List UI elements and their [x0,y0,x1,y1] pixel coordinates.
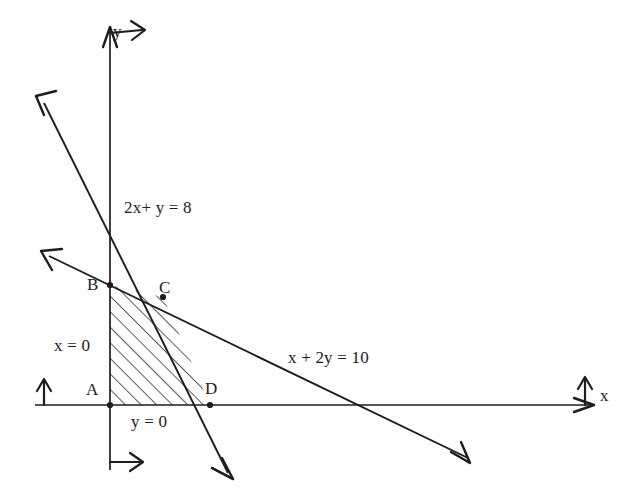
feasible-region-fill [110,285,210,405]
vertex-a-label: A [86,380,98,400]
vertex-a-point [107,402,113,408]
vertex-c-label: C [159,278,170,298]
vertex-d-label: D [205,379,217,399]
vertex-d-point [207,402,213,408]
constraint-y-0-label: y = 0 [131,412,167,432]
x-axis-label: x [600,386,609,406]
graph-svg [0,0,644,503]
y-axis-label: y [113,22,122,42]
line-x-2y-10 [41,249,470,463]
figure-canvas: x y 2x+ y = 8 x + 2y = 10 x = 0 y = 0 A … [0,0,644,503]
constraint-x-0-label: x = 0 [54,336,90,356]
line-2x-y-8-label: 2x+ y = 8 [124,198,192,218]
vertex-b-label: B [87,275,98,295]
vertex-b-point [107,282,113,288]
line-x-2y-10-label: x + 2y = 10 [288,348,369,368]
